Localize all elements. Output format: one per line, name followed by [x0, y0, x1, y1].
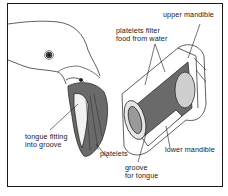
- beak-drawing: [66, 78, 108, 157]
- flamingo-head-drawing: [8, 21, 100, 84]
- label-tongue-line2: into groove: [25, 141, 62, 150]
- label-platelets-filter-line2: food from water: [116, 35, 167, 44]
- bill-cross-section-drawing: [120, 45, 206, 155]
- label-platelets: platelets: [100, 150, 128, 159]
- label-upper-mandible: upper mandible: [163, 11, 214, 20]
- label-lower-mandible: lower mandible: [165, 146, 215, 155]
- bill-illustration: [0, 0, 228, 196]
- label-groove-line2: for tongue: [125, 172, 158, 181]
